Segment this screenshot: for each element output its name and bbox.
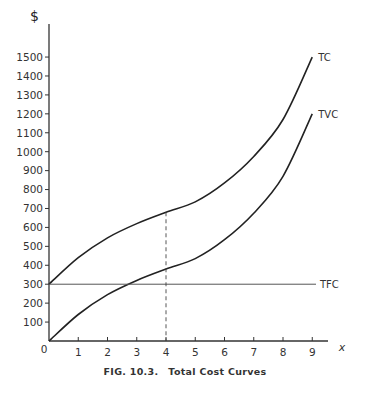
x-axis: 0123456789x	[41, 337, 346, 358]
y-tick-label: 500	[23, 240, 43, 252]
x-tick-label: 3	[133, 346, 140, 358]
figure-title: Total Cost Curves	[168, 366, 266, 377]
x-tick-label: 7	[250, 346, 257, 358]
figure-caption: FIG. 10.3.Total Cost Curves	[0, 366, 370, 377]
y-tick-label: 1400	[16, 70, 43, 82]
x-tick-label: 9	[309, 346, 316, 358]
y-tick-label: 100	[23, 316, 43, 328]
figure-number: FIG. 10.3.	[104, 366, 159, 377]
y-tick-label: 1500	[16, 51, 43, 63]
y-tick-label: 700	[23, 202, 43, 214]
y-tick-label: 600	[23, 221, 43, 233]
y-tick-label: 1300	[16, 89, 43, 101]
curve-labels: TCTVCTFC	[317, 52, 339, 290]
tvc-label: TVC	[317, 109, 338, 120]
y-tick-label: 200	[23, 297, 43, 309]
y-tick-label: 800	[23, 183, 43, 195]
cost-curves	[49, 57, 316, 341]
tc-curve	[49, 57, 312, 284]
y-tick-label: 1200	[16, 108, 43, 120]
origin-label: 0	[41, 343, 48, 355]
y-axis: $100200300400500600700800900100011001200…	[16, 8, 49, 341]
x-tick-label: 2	[104, 346, 111, 358]
y-tick-label: 300	[23, 278, 43, 290]
tfc-label: TFC	[319, 279, 339, 290]
y-tick-label: 900	[23, 164, 43, 176]
y-tick-label: 1000	[16, 146, 43, 158]
x-tick-label: 8	[280, 346, 287, 358]
y-axis-title: $	[30, 8, 39, 24]
total-cost-chart: $100200300400500600700800900100011001200…	[0, 0, 370, 399]
x-tick-label: 5	[192, 346, 199, 358]
tc-label: TC	[317, 52, 331, 63]
y-tick-label: 400	[23, 259, 43, 271]
x-axis-title: x	[338, 341, 346, 354]
y-tick-label: 1100	[16, 127, 43, 139]
x-tick-label: 1	[75, 346, 82, 358]
x-tick-label: 6	[221, 346, 228, 358]
tvc-curve	[49, 114, 312, 341]
x-tick-label: 4	[163, 346, 170, 358]
